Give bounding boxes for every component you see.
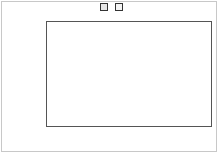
legend-item-2013 (115, 3, 124, 11)
legend-swatch-2013 (115, 3, 123, 11)
legend-item-2012 (100, 3, 109, 11)
legend (100, 3, 124, 11)
legend-swatch-2012 (100, 3, 108, 11)
plot-area (46, 21, 212, 127)
